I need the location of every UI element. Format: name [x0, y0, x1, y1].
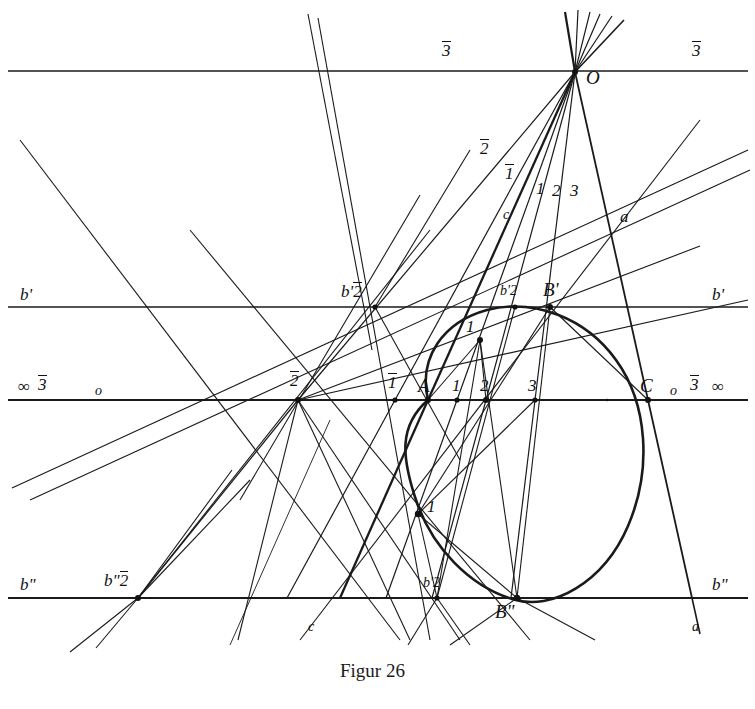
- ray-3: [535, 72, 575, 400]
- ray-stub-5: [575, 16, 612, 72]
- marker-bprime2bar: [372, 304, 377, 309]
- label-ray-1bar: 1: [505, 165, 514, 182]
- conic-curve: [405, 307, 643, 602]
- label-ray-1: 1: [536, 180, 545, 197]
- line-bd2bar-b: [96, 598, 138, 648]
- marker-o2: [483, 397, 489, 403]
- label-bprime-left: b': [20, 286, 32, 303]
- label-o-line-o-left: o: [95, 384, 102, 398]
- marker-o1: [454, 397, 459, 402]
- label-point-1bar: 1: [388, 374, 397, 391]
- marker-1bar: [392, 397, 397, 402]
- line-bp2bar-steep: [318, 18, 430, 640]
- label-point-o3: 3: [528, 377, 537, 394]
- marker-2bar: [295, 397, 301, 403]
- line-2bar-fan-c: [238, 400, 298, 640]
- ray-pencil-through-2bar: [30, 170, 750, 640]
- line-bd2bar-e: [138, 230, 430, 598]
- marker-conic-1-lower: [415, 511, 421, 517]
- line-Bprime-to-C: [550, 307, 648, 400]
- label-point-A: A: [418, 376, 430, 395]
- marker-C: [645, 397, 651, 403]
- label-point-bdprime-2bar: b"2: [104, 572, 128, 589]
- ray-c: [428, 72, 575, 400]
- label-conic-point-1-lower: 1: [427, 498, 436, 515]
- ray-1bar-ext: [287, 400, 395, 598]
- label-ray-a: a: [620, 208, 629, 225]
- line-2bar-fan-a: [298, 400, 460, 640]
- transversal-secondary: [230, 420, 330, 645]
- line-bp2bar-up-right: [375, 150, 470, 307]
- label-point-bprime2-bottom: b'2: [423, 576, 440, 590]
- figure-container: 3 3 O 2 1 c 1 2 3 a b' b' b'2 b'2 B' ∞ 3…: [0, 0, 755, 709]
- ray-a-ext: [648, 400, 692, 598]
- label-top-3bar-left: 3: [442, 42, 451, 59]
- label-bottom-a: a: [692, 620, 699, 634]
- ray-a: [575, 72, 648, 400]
- transversal-steep-left: [308, 14, 372, 350]
- figure-caption: Figur 26: [340, 660, 405, 682]
- label-ray-2bar: 2: [480, 140, 489, 157]
- line-bp2-down: [437, 307, 515, 598]
- line-2bar-to-bp2bar: [240, 195, 420, 500]
- label-top-3bar-right: 3: [692, 42, 701, 59]
- transversal-from-Bdprime-right: [517, 598, 595, 640]
- label-point-Bprime: B': [543, 280, 559, 299]
- marker-bdprime2bar: [135, 595, 141, 601]
- label-bdprime-left: b": [20, 576, 36, 593]
- label-point-bprime-2: b'2: [500, 284, 517, 298]
- ray-1bar: [395, 72, 575, 400]
- marker-o-tick: [606, 399, 608, 401]
- marker-O: [572, 69, 578, 75]
- label-ray-3: 3: [570, 182, 579, 199]
- label-point-bprime-2bar: b'2: [341, 283, 362, 300]
- line-bd2bar-c: [138, 480, 250, 598]
- label-o-line-infinity-left: ∞: [18, 378, 30, 395]
- point-markers: [135, 69, 651, 601]
- ray-1: [457, 72, 575, 400]
- marker-Bprime: [547, 304, 553, 310]
- label-ray-c: c: [503, 208, 509, 222]
- label-point-2bar: 2: [290, 372, 299, 389]
- line-bp2bottom-dn: [408, 598, 437, 645]
- label-point-o2: 2: [480, 377, 489, 394]
- marker-conic-1-upper: [477, 337, 483, 343]
- ray-3-ext: [511, 400, 535, 598]
- label-bprime-right: b': [712, 286, 724, 303]
- geometry-drawing: [0, 0, 755, 709]
- line-bd2bar-a: [70, 598, 138, 652]
- ray-stub-1: [565, 12, 575, 72]
- ray-2bar: [298, 72, 575, 400]
- ray-1-ext: [386, 400, 457, 598]
- transversal-lines: [12, 14, 748, 645]
- label-point-C: C: [640, 376, 653, 395]
- label-point-O: O: [586, 68, 600, 87]
- label-o-line-3bar-left: 3: [38, 376, 47, 393]
- marker-o3: [532, 397, 537, 402]
- label-point-o1: 1: [452, 377, 461, 394]
- label-bdprime-right: b": [712, 576, 728, 593]
- conic-path: [405, 307, 643, 602]
- marker-A: [425, 397, 431, 403]
- label-o-line-infinity-right: ∞: [712, 378, 724, 395]
- line-bd2bar-d: [138, 470, 232, 598]
- marker-bprime2-bottom: [434, 595, 439, 600]
- label-ray-2: 2: [552, 182, 561, 199]
- label-conic-point-1-upper: 1: [466, 318, 475, 335]
- label-o-line-o-right: o: [670, 384, 677, 398]
- label-bottom-c: c: [308, 620, 314, 634]
- ray-stub-6: [575, 20, 624, 72]
- label-point-Bdprime: B": [495, 602, 515, 621]
- marker-bprime2: [512, 304, 517, 309]
- label-o-line-3bar-right: 3: [690, 376, 699, 393]
- line-bp2bottom-up: [437, 598, 470, 645]
